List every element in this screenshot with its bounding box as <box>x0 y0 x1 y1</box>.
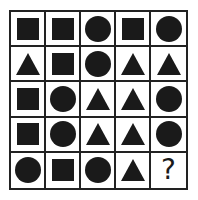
square-icon <box>52 53 74 75</box>
grid-cell-r3-c4 <box>151 118 186 153</box>
circle-icon <box>50 86 76 112</box>
triangle-icon <box>121 159 145 181</box>
grid-cell-r2-c4 <box>151 82 186 117</box>
grid-cell-r1-c1 <box>46 47 81 82</box>
grid-cell-r2-c0 <box>11 82 46 117</box>
grid-cell-r3-c0 <box>11 118 46 153</box>
grid-cell-r0-c2 <box>81 12 116 47</box>
question-mark-icon: ? <box>161 156 176 184</box>
square-icon <box>17 88 39 110</box>
triangle-icon <box>86 123 110 145</box>
grid-cell-r2-c3 <box>116 82 151 117</box>
circle-icon <box>85 157 111 183</box>
triangle-icon <box>121 88 145 110</box>
grid-cell-r1-c3 <box>116 47 151 82</box>
grid-cell-r2-c1 <box>46 82 81 117</box>
grid-cell-r1-c4 <box>151 47 186 82</box>
square-icon <box>122 18 144 40</box>
square-icon <box>17 123 39 145</box>
grid-cell-r3-c1 <box>46 118 81 153</box>
circle-icon <box>85 51 111 77</box>
grid-cell-r4-c2 <box>81 153 116 188</box>
grid-cell-r3-c3 <box>116 118 151 153</box>
grid-cell-r0-c1 <box>46 12 81 47</box>
square-icon <box>52 18 74 40</box>
triangle-icon <box>86 88 110 110</box>
square-icon <box>17 18 39 40</box>
triangle-icon <box>121 123 145 145</box>
grid-cell-r4-c0 <box>11 153 46 188</box>
circle-icon <box>85 16 111 42</box>
puzzle-grid: ? <box>9 10 188 190</box>
grid-cell-r4-c3 <box>116 153 151 188</box>
circle-icon <box>156 121 182 147</box>
square-icon <box>52 159 74 181</box>
circle-icon <box>156 86 182 112</box>
grid-cell-r1-c0 <box>11 47 46 82</box>
grid-cell-r3-c2 <box>81 118 116 153</box>
grid-cell-r0-c3 <box>116 12 151 47</box>
grid-cell-r4-c4[interactable]: ? <box>151 153 186 188</box>
grid-cell-r0-c0 <box>11 12 46 47</box>
triangle-icon <box>157 53 181 75</box>
triangle-icon <box>121 53 145 75</box>
grid-cell-r4-c1 <box>46 153 81 188</box>
circle-icon <box>15 157 41 183</box>
grid-cell-r2-c2 <box>81 82 116 117</box>
triangle-icon <box>16 53 40 75</box>
circle-icon <box>156 16 182 42</box>
circle-icon <box>50 121 76 147</box>
grid-cell-r1-c2 <box>81 47 116 82</box>
grid-cell-r0-c4 <box>151 12 186 47</box>
